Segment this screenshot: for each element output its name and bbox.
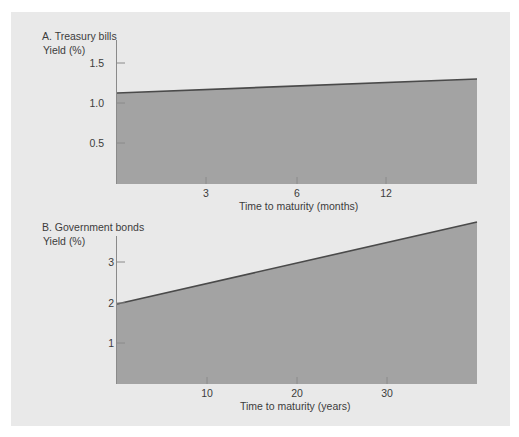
chart-a-plot — [117, 40, 478, 184]
chart-b-plot — [117, 222, 478, 384]
chart-b-title: B. Government bonds — [42, 222, 144, 233]
chart-b-xtick-label-10: 10 — [192, 388, 222, 399]
chart-a-ytick-label-15: 1.5 — [74, 58, 104, 69]
chart-b-xtick-label-20: 20 — [282, 388, 312, 399]
chart-a-ytick-label-10: 1.0 — [74, 98, 104, 109]
chart-a-xlabel: Time to maturity (months) — [239, 201, 358, 212]
chart-b-area — [117, 222, 477, 384]
chart-a-ytick-label-05: 0.5 — [74, 138, 104, 149]
chart-b-xlabel: Time to maturity (years) — [240, 401, 350, 412]
chart-a-xtick-label-12: 12 — [371, 188, 401, 199]
chart-b-ytick-label-1: 1 — [84, 338, 114, 349]
chart-a-area — [117, 79, 477, 184]
chart-b-xtick-label-30: 30 — [372, 388, 402, 399]
chart-b-ytick-label-3: 3 — [84, 257, 114, 268]
chart-a-ylabel: Yield (%) — [43, 45, 85, 56]
chart-a-title: A. Treasury bills — [42, 31, 117, 42]
chart-b-ylabel: Yield (%) — [43, 236, 85, 247]
chart-a-xtick-label-3: 3 — [191, 188, 221, 199]
chart-b-ytick-label-2: 2 — [84, 298, 114, 309]
chart-a-xtick-label-6: 6 — [282, 188, 312, 199]
